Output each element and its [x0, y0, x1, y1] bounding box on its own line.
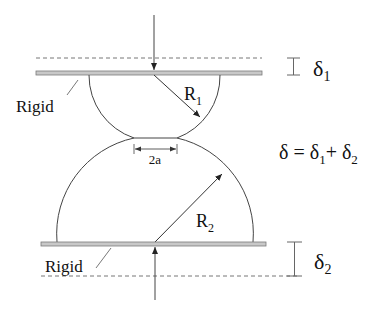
contact-mechanics-diagram: R1 2a R2 Rigid Rigid δ1 δ = δ1+ δ2 δ2: [0, 0, 384, 316]
delta1-label: δ1: [313, 56, 330, 84]
rigid-top-label: Rigid: [16, 97, 54, 116]
total-displacement-equation: δ = δ1+ δ2: [279, 141, 358, 167]
top-rigid-plate: [36, 71, 262, 75]
bottom-rigid-plate: [41, 242, 266, 246]
rigid-bottom-label: Rigid: [45, 257, 83, 276]
rigid-top-leader: [67, 80, 78, 95]
rigid-bottom-leader: [96, 248, 111, 268]
radius-r2-label: R2: [196, 211, 214, 235]
delta2-label: δ2: [314, 249, 331, 277]
contact-width-label: 2a: [149, 152, 162, 167]
